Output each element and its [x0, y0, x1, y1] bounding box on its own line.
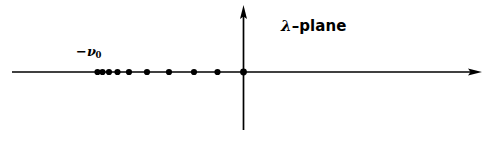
eigenvalue-point — [144, 69, 150, 75]
minus-sign: − — [76, 44, 87, 59]
plane-label-word: plane — [299, 17, 346, 35]
lambda-symbol: λ — [281, 17, 292, 35]
eigenvalue-point — [214, 69, 220, 75]
eigenvalue-point — [99, 69, 105, 75]
lambda-plane-figure: λ–plane −ν0 — [0, 0, 498, 143]
plane-label: λ–plane — [281, 19, 347, 34]
figure-canvas — [0, 0, 498, 143]
eigenvalue-point — [166, 69, 172, 75]
eigenvalue-point — [106, 69, 112, 75]
eigenvalue-point — [191, 69, 197, 75]
nu-subscript: 0 — [95, 50, 101, 60]
eigenvalue-point — [114, 69, 120, 75]
accumulation-point-label: −ν0 — [76, 45, 101, 60]
imaginary-axis-group — [240, 5, 247, 130]
eigenvalue-point — [126, 69, 132, 75]
origin-point — [240, 69, 247, 76]
real-axis-group — [12, 68, 482, 75]
